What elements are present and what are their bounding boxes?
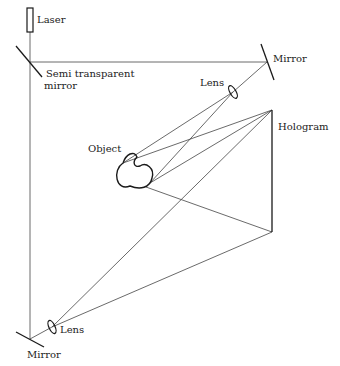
beam-reference-bottom (52, 232, 272, 327)
mirror-bottom-label: Mirror (27, 349, 61, 360)
hologram-label: Hologram (278, 121, 329, 132)
lens-bottom-label: Lens (60, 324, 84, 335)
beam-bottom-mirror-to-lens (30, 327, 52, 339)
semi-mirror-label-line1: Semi transparent (46, 68, 134, 79)
beam-object-to-hologram-bottom (146, 187, 272, 232)
beam-reference-top (52, 110, 272, 327)
lens-top-label: Lens (200, 77, 224, 88)
beam-object-to-hologram-top (123, 110, 272, 163)
mirror-top-label: Mirror (273, 53, 307, 64)
laser-label: Laser (37, 14, 65, 25)
semi-transparent-mirror-icon (16, 46, 42, 77)
laser-icon (27, 8, 33, 32)
object-label: Object (88, 143, 121, 154)
semi-mirror-label-line2: mirror (44, 80, 77, 91)
beam-mirror-to-lens (233, 62, 267, 92)
